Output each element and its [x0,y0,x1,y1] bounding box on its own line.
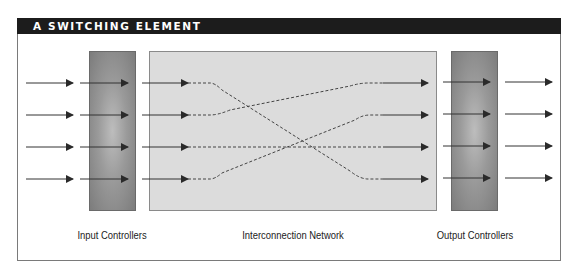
output-arrows [383,82,552,179]
input-controllers-label: Input Controllers [71,229,153,241]
input-arrows [26,83,188,179]
output-controllers-label: Output Controllers [430,229,520,241]
interconnection-network-label: Interconnection Network [240,229,347,241]
network-paths [188,83,383,179]
